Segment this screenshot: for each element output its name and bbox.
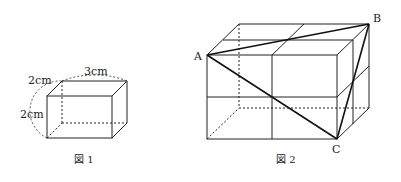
point-c-label: C (332, 143, 340, 156)
point-a-label: A (193, 50, 203, 63)
point-b-label: B (373, 12, 381, 25)
figure-1-caption: 図 1 (74, 154, 94, 165)
height-label: 2cm (20, 108, 44, 121)
figures-canvas: 2cm 2cm 3cm 図 1 A B C 図 2 (0, 0, 401, 182)
depth-label: 2cm (28, 74, 52, 87)
figure-2-caption: 図 2 (276, 154, 296, 165)
triangle-abc (207, 24, 369, 139)
figure-2-cuboid (207, 24, 369, 139)
width-label: 3cm (84, 65, 108, 78)
